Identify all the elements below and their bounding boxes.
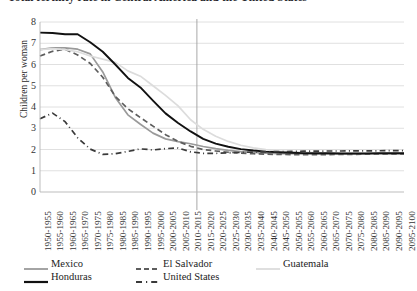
legend-line-swatch bbox=[136, 260, 160, 270]
legend-item-united-states[interactable]: United States bbox=[136, 271, 219, 284]
legend-swatch-icon bbox=[136, 277, 160, 287]
series-line-honduras bbox=[40, 33, 404, 154]
legend-label: Honduras bbox=[51, 272, 92, 283]
legend-row-2: HondurasUnited States bbox=[24, 271, 404, 284]
legend-line-swatch bbox=[24, 260, 48, 270]
legend-label: Guatemala bbox=[283, 259, 328, 270]
chart-legend: MexicoEl SalvadorGuatemala HondurasUnite… bbox=[24, 258, 404, 286]
legend-item-guatemala[interactable]: Guatemala bbox=[256, 258, 328, 271]
legend-line-swatch bbox=[24, 273, 48, 283]
legend-item-mexico[interactable]: Mexico bbox=[24, 258, 83, 271]
legend-item-el-salvador[interactable]: El Salvador bbox=[136, 258, 212, 271]
grid-lines bbox=[40, 22, 404, 171]
legend-line-swatch bbox=[136, 273, 160, 283]
legend-line-swatch bbox=[256, 260, 280, 270]
data-series-group bbox=[40, 33, 404, 155]
legend-label: El Salvador bbox=[163, 259, 212, 270]
legend-label: Mexico bbox=[51, 259, 83, 270]
legend-row-1: MexicoEl SalvadorGuatemala bbox=[24, 258, 404, 271]
legend-swatch-icon bbox=[24, 277, 48, 287]
series-line-united-states bbox=[40, 113, 404, 154]
legend-item-honduras[interactable]: Honduras bbox=[24, 271, 92, 284]
legend-label: United States bbox=[163, 272, 219, 283]
